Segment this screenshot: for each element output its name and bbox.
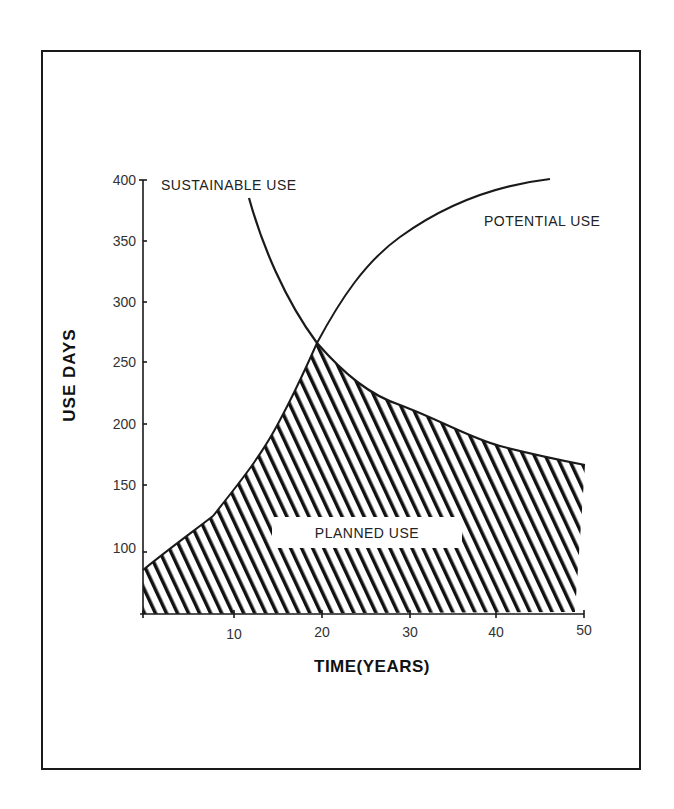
plot-area [0,0,674,809]
y-tick-label: 150 [96,478,136,492]
y-tick-label: 300 [96,295,136,309]
x-tick-label: 10 [214,627,254,641]
x-tick-label: 30 [390,625,430,639]
y-axis [139,180,147,614]
x-axis-label: TIME(YEARS) [314,657,430,677]
x-tick-label: 40 [476,625,516,639]
x-tick-label: 20 [302,625,342,639]
planned-use-label: PLANNED USE [315,525,419,541]
planned-use-area [140,330,600,620]
y-tick-label: 350 [96,234,136,248]
y-axis-label: USE DAYS [60,328,80,421]
potential-use-label: POTENTIAL USE [484,213,600,229]
y-tick-label: 400 [96,173,136,187]
planned-use-label-box: PLANNED USE [272,517,462,548]
y-tick-label: 200 [96,417,136,431]
y-tick-label: 100 [96,541,136,555]
y-tick-label: 250 [96,355,136,369]
x-tick-label: 50 [564,623,604,637]
sustainable-use-label: SUSTAINABLE USE [161,177,297,193]
